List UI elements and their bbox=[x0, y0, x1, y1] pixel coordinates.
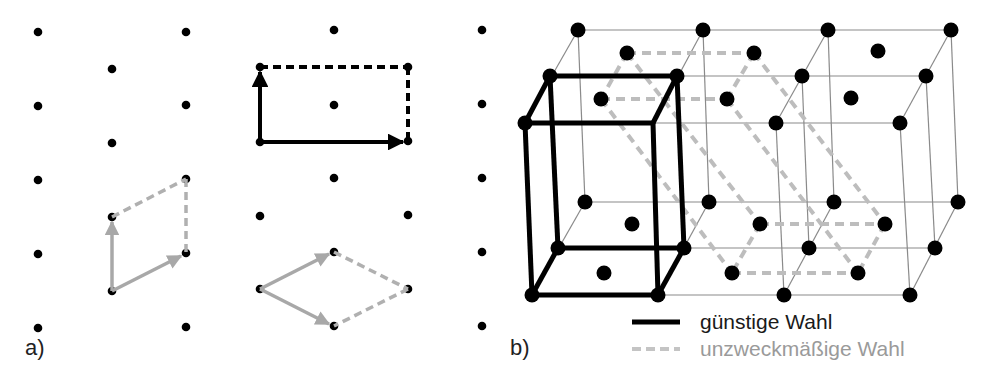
panel-a-primitive-cell-left bbox=[112, 179, 186, 291]
panel-b-atoms bbox=[518, 23, 966, 303]
panel-a-label: a) bbox=[25, 335, 45, 360]
panel-a-lattice-dots bbox=[34, 26, 487, 333]
crystal-lattice-figure: a) bbox=[0, 0, 995, 388]
legend-good-label: günstige Wahl bbox=[700, 310, 832, 333]
panel-a-primitive-cell-right bbox=[260, 252, 408, 326]
legend: günstige Wahl unzweckmäßige Wahl bbox=[632, 310, 905, 360]
panel-b-favorable-cell bbox=[525, 76, 684, 295]
panel-b: b) günstige Wahl unzweckmäßige Wahl bbox=[510, 23, 966, 361]
panel-b-label: b) bbox=[510, 335, 530, 360]
panel-b-unsuitable-cell bbox=[601, 53, 885, 273]
panel-a: a) bbox=[25, 26, 486, 360]
legend-bad-label: unzweckmäßige Wahl bbox=[700, 337, 905, 360]
